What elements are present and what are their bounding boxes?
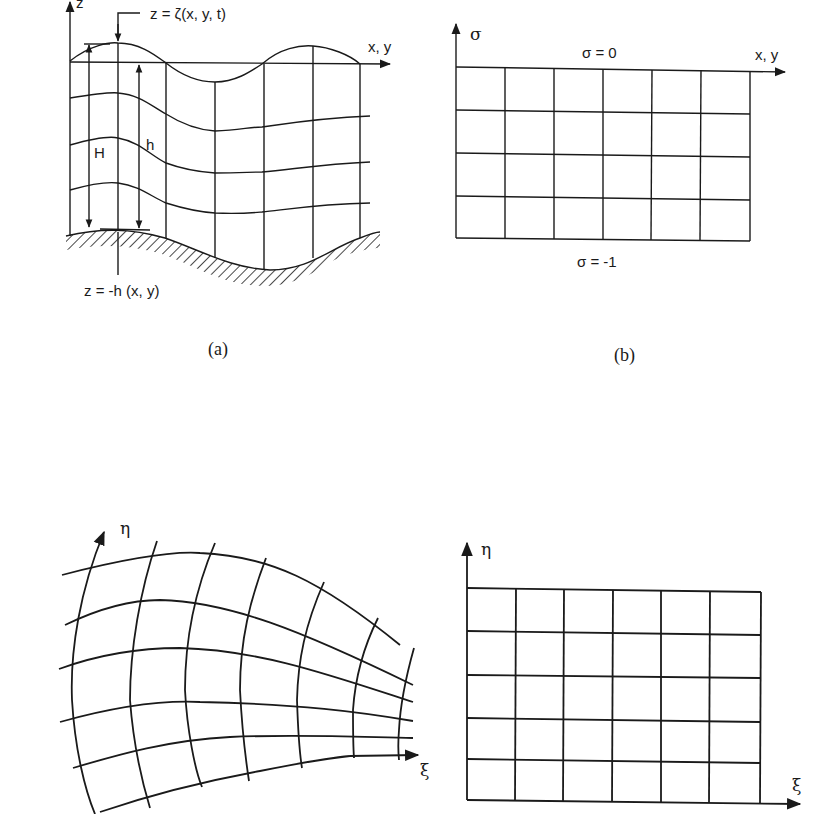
panel-b-caption: (b) — [614, 345, 635, 366]
x-axis-label: x, y — [755, 46, 779, 63]
panel-a-caption: (a) — [208, 339, 228, 360]
panel-c-curvilinear-grid: ξ η — [59, 518, 429, 814]
sea-bed-hatching — [66, 230, 380, 286]
xi-line-5 — [297, 582, 324, 768]
xi-axis-label: ξ — [792, 775, 801, 795]
eta-axis — [72, 532, 104, 814]
panel-d-rectangular-grid: η ξ — [467, 539, 801, 804]
xi-line-3 — [185, 543, 215, 787]
sigma-axis-label: σ — [470, 24, 482, 44]
eta-axis-label: η — [120, 518, 130, 538]
eta-line-1 — [100, 756, 350, 812]
eta-axis-label: η — [481, 539, 491, 559]
sigma-bottom-label: σ = -1 — [577, 253, 617, 270]
computational-grid — [467, 588, 761, 803]
still-depth-label: h — [146, 136, 154, 153]
sigma-level-3 — [70, 183, 370, 214]
xi-axis — [350, 755, 418, 756]
panel-b-sigma-grid: σ x, y σ = 0 σ = -1 (b) — [456, 24, 785, 366]
xi-axis-label: ξ — [420, 760, 429, 780]
still-depth-tick — [100, 229, 150, 230]
xi-line-4 — [240, 558, 266, 781]
xi-line-2 — [130, 541, 157, 808]
eta-line-5 — [65, 600, 413, 685]
surface-label: z = ζ(x, y, t) — [150, 5, 226, 22]
sigma-top-label: σ = 0 — [582, 44, 617, 61]
x-axis-label: x, y — [368, 38, 392, 55]
eta-line-4 — [59, 648, 413, 702]
surface-leader — [118, 13, 140, 40]
total-depth-label: H — [94, 144, 105, 161]
sigma-level-2 — [70, 137, 370, 173]
eta-line-6 — [62, 553, 400, 645]
bottom-label: z = -h (x, y) — [84, 282, 159, 299]
xi-axis — [467, 800, 800, 804]
eta-line-3 — [60, 702, 413, 722]
sigma-grid — [456, 67, 750, 241]
panel-a-physical-section: z x, y H h z = ζ(x, y, t) — [66, 0, 392, 360]
z-axis-label: z — [76, 0, 84, 11]
sigma-level-1 — [70, 93, 370, 131]
figure-canvas: z x, y H h z = ζ(x, y, t) — [0, 0, 832, 814]
xi-line-7 — [398, 648, 414, 760]
